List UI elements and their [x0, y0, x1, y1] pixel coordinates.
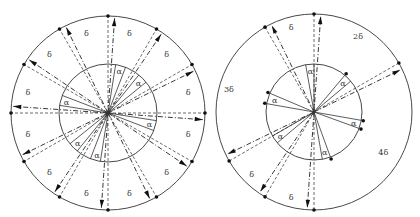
- delta-label: δ: [47, 168, 52, 177]
- alpha-label: α: [278, 132, 284, 141]
- right-diagram: ααααααδ2δ3δ4δδδ: [216, 12, 412, 212]
- outer-dot: [9, 111, 13, 115]
- alpha-label: α: [147, 120, 153, 129]
- inner-dot: [329, 157, 333, 161]
- delta-label: δ: [47, 50, 52, 59]
- delta-label: δ: [127, 189, 132, 198]
- outer-dot: [397, 61, 401, 65]
- alpha-label: α: [136, 79, 142, 88]
- outer-dot: [203, 111, 207, 115]
- delta-label: δ: [127, 29, 132, 38]
- outer-dot: [106, 208, 110, 212]
- dashed-ray: [108, 29, 157, 113]
- arrowhead-icon: [155, 34, 161, 42]
- alpha-label: α: [322, 148, 328, 157]
- arrowhead-icon: [23, 149, 31, 154]
- alpha-label: α: [116, 67, 122, 76]
- arrowhead-icon: [260, 184, 266, 192]
- inner-dot: [361, 119, 365, 123]
- alpha-label: α: [64, 98, 70, 107]
- outer-dot: [190, 160, 194, 164]
- arrowhead-icon: [392, 70, 400, 75]
- outer-dot: [58, 27, 62, 31]
- region-label: 4δ: [378, 148, 388, 157]
- arrowhead-icon: [55, 184, 61, 192]
- arrowhead-icon: [66, 28, 71, 36]
- alpha-label: α: [75, 139, 81, 148]
- dashdot-arrow: [227, 112, 314, 155]
- alpha-label: α: [351, 119, 357, 128]
- alpha-line: [100, 113, 108, 161]
- outer-dot: [22, 63, 26, 67]
- arrowhead-icon: [13, 105, 21, 109]
- region-label: δ: [249, 170, 254, 179]
- delta-label: δ: [25, 88, 30, 97]
- outer-dot: [263, 25, 267, 29]
- arrowhead-icon: [179, 160, 187, 166]
- arrowhead-icon: [228, 149, 236, 154]
- arrowhead-icon: [272, 26, 277, 34]
- alpha-label: α: [340, 79, 346, 88]
- region-label: δ: [289, 23, 294, 32]
- arrowhead-icon: [144, 190, 149, 198]
- outer-dot: [312, 12, 316, 16]
- inner-dot: [344, 72, 348, 76]
- outer-dot: [22, 160, 26, 164]
- arrowhead-icon: [112, 18, 116, 26]
- arrowhead-icon: [318, 16, 322, 24]
- dashdot-arrow: [108, 71, 194, 113]
- outer-dot: [58, 195, 62, 199]
- outer-dot: [155, 195, 159, 199]
- outer-dot: [190, 63, 194, 67]
- arrowhead-icon: [306, 200, 310, 208]
- delta-label: δ: [84, 29, 89, 38]
- alpha-label: α: [272, 96, 278, 105]
- delta-label: δ: [25, 130, 30, 139]
- dashed-ray: [60, 113, 109, 197]
- delta-label: δ: [186, 88, 191, 97]
- alpha-label: α: [308, 67, 314, 76]
- dashed-ray: [314, 63, 399, 112]
- dashed-ray: [265, 112, 314, 197]
- dashdot-arrow: [108, 113, 150, 199]
- inner-dot: [266, 91, 270, 95]
- alpha-label: α: [94, 151, 100, 160]
- arrowhead-icon: [185, 71, 193, 76]
- outer-dot: [227, 159, 231, 163]
- inner-dot: [263, 102, 267, 106]
- region-label: 3δ: [224, 85, 234, 94]
- outer-dot: [155, 27, 159, 31]
- outer-dot: [312, 208, 316, 212]
- dashdot-arrow: [22, 113, 108, 155]
- region-label: δ: [289, 193, 294, 202]
- dashdot-arrow: [314, 69, 401, 112]
- region-label: 2δ: [353, 32, 363, 41]
- alpha-line: [108, 75, 139, 113]
- figure: ααααααδδδδδδδδδδδδ ααααααδ2δ3δ4δδδ: [0, 0, 420, 217]
- delta-label: δ: [84, 189, 89, 198]
- dashdot-arrow: [54, 113, 108, 193]
- delta-label: δ: [164, 50, 169, 59]
- delta-label: δ: [186, 130, 191, 139]
- delta-label: δ: [164, 168, 169, 177]
- arrowhead-icon: [100, 200, 104, 208]
- inner-dot: [359, 127, 363, 131]
- arrowhead-icon: [195, 117, 203, 121]
- left-diagram: ααααααδδδδδδδδδδδδ: [9, 14, 207, 212]
- outer-dot: [263, 195, 267, 199]
- arrowhead-icon: [29, 60, 37, 66]
- alpha-line: [77, 113, 108, 151]
- outer-dot: [106, 14, 110, 18]
- dashdot-arrow: [66, 27, 108, 113]
- diagram-canvas: ααααααδδδδδδδδδδδδ ααααααδ2δ3δ4δδδ: [0, 0, 420, 217]
- alpha-line: [108, 65, 116, 113]
